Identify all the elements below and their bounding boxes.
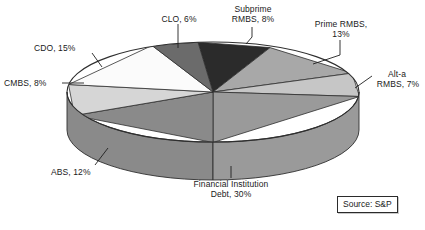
slice-label-subprime-rmbs-line2: RMBS, 8% [218,14,288,24]
slice-label-cdo: CDO, 15% [34,43,75,53]
slice-label-cmbs: CMBS, 8% [4,78,46,88]
slice-label-alt-a-rmbs-line1: Alt-a [372,69,422,79]
slice-label-clo: CLO, 6% [148,14,210,24]
slice-label-financial-institution-debt-line2: Debt, 30% [181,189,281,199]
leader-line-subprime-rmbs [246,27,252,44]
source-note: Source: S&P [337,196,398,213]
slice-label-prime-rmbs-line2: 13% [305,29,377,39]
slice-label-financial-institution-debt-line1: Financial Institution [181,179,281,189]
chart-canvas: CLO, 6% Subprime RMBS, 8% Prime RMBS, 13… [0,0,425,230]
slice-label-abs: ABS, 12% [51,167,91,177]
slice-label-prime-rmbs-line1: Prime RMBS, [305,19,377,29]
leader-line-alt-a-rmbs [355,76,372,88]
slice-label-alt-a-rmbs-line2: RMBS, 7% [372,79,424,89]
slice-label-subprime-rmbs-line1: Subprime [218,4,288,14]
